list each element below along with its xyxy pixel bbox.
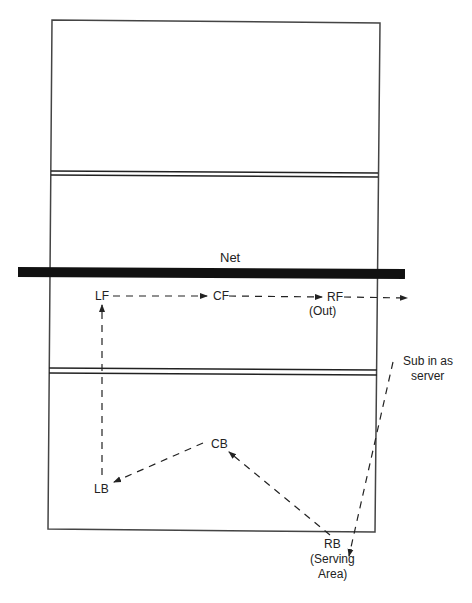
label-rb-note-2: Area): [318, 567, 347, 581]
label-cb: CB: [211, 437, 228, 451]
arrow-rf-out: [344, 297, 407, 298]
sub-note-line-2: server: [411, 369, 444, 383]
net: [18, 267, 405, 279]
arrow-cf-to-rf: [229, 296, 322, 297]
attack-line-bottom: [49, 368, 377, 375]
label-rf-note: (Out): [309, 304, 336, 318]
arrow-sub-to-rb: [349, 362, 393, 556]
net-label: Net: [220, 250, 241, 265]
label-rf: RF: [327, 290, 343, 304]
label-cf: CF: [213, 289, 229, 303]
sub-note-line-1: Sub in as: [403, 354, 453, 368]
label-lf: LF: [95, 289, 109, 303]
label-rb: RB: [324, 537, 341, 551]
label-lb: LB: [94, 482, 109, 496]
label-rb-note-1: (Serving: [310, 552, 355, 566]
arrow-rb-to-cb: [229, 452, 330, 535]
attack-line-top: [51, 171, 378, 177]
arrow-cb-to-lb: [114, 443, 203, 482]
rotation-diagram: Net LF CF RF (Out) LB CB RB (Serving Are…: [0, 0, 472, 603]
